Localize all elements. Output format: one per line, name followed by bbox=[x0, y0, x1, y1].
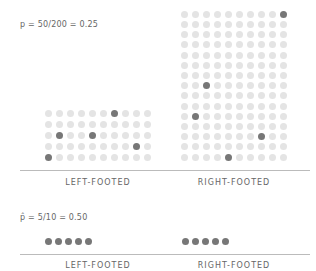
population-dot bbox=[280, 113, 287, 120]
population-dot bbox=[192, 154, 199, 161]
population-dot bbox=[181, 21, 188, 28]
population-dot bbox=[269, 41, 276, 48]
population-dot bbox=[203, 154, 210, 161]
population-dot bbox=[192, 11, 199, 18]
population-dot bbox=[258, 62, 265, 69]
population-dot bbox=[192, 72, 199, 79]
population-dot bbox=[67, 132, 74, 139]
population-dot bbox=[269, 52, 276, 59]
population-dot bbox=[236, 52, 243, 59]
population-dot bbox=[67, 143, 74, 150]
population-dot bbox=[247, 31, 254, 38]
population-dot bbox=[192, 82, 199, 89]
population-dot bbox=[236, 103, 243, 110]
population-dot bbox=[181, 62, 188, 69]
population-dot bbox=[280, 154, 287, 161]
population-dot bbox=[280, 31, 287, 38]
population-dot bbox=[67, 121, 74, 128]
population-dot bbox=[67, 110, 74, 117]
population-dot bbox=[56, 143, 63, 150]
population-dot bbox=[181, 11, 188, 18]
population-dot bbox=[144, 132, 151, 139]
population-dot bbox=[181, 113, 188, 120]
population-dot bbox=[181, 123, 188, 130]
population-dot bbox=[100, 110, 107, 117]
population-dot bbox=[89, 143, 96, 150]
population-left-footed-label: LEFT-FOOTED bbox=[38, 178, 158, 187]
population-dot bbox=[269, 92, 276, 99]
population-proportion-label: p = 50/200 = 0.25 bbox=[20, 20, 98, 29]
population-dot bbox=[280, 123, 287, 130]
population-dot bbox=[78, 143, 85, 150]
population-dot bbox=[247, 62, 254, 69]
population-dot bbox=[236, 123, 243, 130]
population-dot bbox=[133, 132, 140, 139]
population-right-footed-label: RIGHT-FOOTED bbox=[174, 178, 294, 187]
population-dot bbox=[56, 154, 63, 161]
population-dot bbox=[269, 11, 276, 18]
population-dot bbox=[192, 92, 199, 99]
population-dot bbox=[247, 92, 254, 99]
population-dot bbox=[269, 123, 276, 130]
population-dot bbox=[192, 41, 199, 48]
population-dot bbox=[192, 133, 199, 140]
population-baseline bbox=[20, 170, 310, 171]
population-dot bbox=[133, 154, 140, 161]
population-dot bbox=[280, 52, 287, 59]
population-dot bbox=[247, 41, 254, 48]
population-dot bbox=[280, 72, 287, 79]
population-dot bbox=[214, 133, 221, 140]
population-dot bbox=[100, 121, 107, 128]
population-dot bbox=[258, 92, 265, 99]
sampled-dot bbox=[225, 154, 232, 161]
population-dot bbox=[269, 62, 276, 69]
population-dot bbox=[258, 82, 265, 89]
sample-dot bbox=[212, 238, 219, 245]
population-dot bbox=[45, 110, 52, 117]
population-dot bbox=[181, 41, 188, 48]
population-dot bbox=[280, 103, 287, 110]
population-dot bbox=[269, 143, 276, 150]
population-dot bbox=[225, 21, 232, 28]
population-dot bbox=[192, 103, 199, 110]
population-dot bbox=[225, 72, 232, 79]
population-dot bbox=[181, 52, 188, 59]
population-dot bbox=[133, 110, 140, 117]
population-dot bbox=[225, 133, 232, 140]
population-dot bbox=[258, 11, 265, 18]
population-dot bbox=[225, 143, 232, 150]
population-dot bbox=[247, 21, 254, 28]
population-dot bbox=[269, 21, 276, 28]
population-dot bbox=[225, 41, 232, 48]
population-dot bbox=[214, 52, 221, 59]
population-dot bbox=[258, 41, 265, 48]
population-dot bbox=[203, 52, 210, 59]
population-dot bbox=[258, 113, 265, 120]
population-dot bbox=[144, 121, 151, 128]
population-dot bbox=[203, 113, 210, 120]
population-dot bbox=[214, 113, 221, 120]
sample-dot bbox=[55, 238, 62, 245]
population-dot bbox=[236, 62, 243, 69]
population-dot bbox=[78, 121, 85, 128]
population-dot bbox=[258, 154, 265, 161]
population-dot bbox=[269, 154, 276, 161]
population-dot bbox=[203, 11, 210, 18]
population-dot bbox=[78, 154, 85, 161]
sample-right-footed-label: RIGHT-FOOTED bbox=[174, 261, 294, 270]
sampled-dot bbox=[89, 132, 96, 139]
sample-dot bbox=[75, 238, 82, 245]
population-dot bbox=[280, 133, 287, 140]
population-dot bbox=[100, 132, 107, 139]
population-dot bbox=[258, 52, 265, 59]
sample-dot bbox=[182, 238, 189, 245]
population-dot bbox=[236, 113, 243, 120]
population-dot bbox=[258, 123, 265, 130]
sampled-dot bbox=[258, 133, 265, 140]
sampled-dot bbox=[280, 11, 287, 18]
population-dot bbox=[236, 72, 243, 79]
population-dot bbox=[280, 82, 287, 89]
population-dot bbox=[203, 133, 210, 140]
population-dot bbox=[203, 123, 210, 130]
population-dot bbox=[192, 31, 199, 38]
